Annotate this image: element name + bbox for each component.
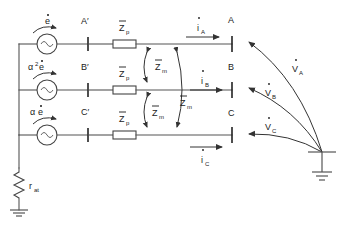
source-label-b: α 2 e [28, 60, 44, 72]
voltage-label-b: V B [265, 83, 276, 100]
impedance-label-zm-ab-sub: m [162, 68, 167, 74]
resistor-label-r-at: r at [29, 181, 39, 193]
current-label-c-sub: C [205, 161, 210, 167]
impedance-label-zp-a: Z p [119, 21, 130, 35]
voltage-label-b-base: V [265, 88, 271, 98]
voltage-label-c-base: V [265, 122, 271, 132]
terminal-label-c: C [228, 108, 235, 118]
neutral-resistor-symbol [14, 168, 24, 210]
impedance-box-zp-c [113, 131, 136, 139]
impedance-label-zm-ac-sub: m [187, 104, 192, 110]
phase-c-row [19, 125, 232, 145]
impedance-label-zm-ac-base: Z [180, 98, 186, 108]
current-label-a: i A [197, 17, 205, 35]
impedance-label-zp-b-base: Z [119, 69, 125, 79]
impedance-label-zp-b-sub: p [126, 75, 130, 81]
impedance-label-zm-ac: Z m [180, 96, 192, 110]
voltage-label-c-sub: C [272, 128, 277, 134]
current-label-a-base: i [197, 23, 199, 33]
resistor-label-base: r [29, 181, 32, 191]
impedance-label-zp-c: Z p [119, 112, 130, 126]
current-label-a-sub: A [201, 29, 205, 35]
source-polarity-arrow-b [33, 73, 56, 79]
impedance-label-zm-bc-base: Z [152, 108, 158, 118]
voltage-label-c: V C [265, 117, 277, 134]
voltage-label-b-sub: B [272, 94, 276, 100]
terminal-label-b-prime: B′ [81, 62, 89, 72]
source-label-c-coefficient: α [30, 107, 35, 117]
impedance-label-zp-c-sub: p [126, 120, 130, 126]
source-polarity-arrow-a [33, 27, 56, 33]
source-label-a: e [45, 14, 50, 26]
mutual-coupling-arc-bc [144, 97, 147, 127]
mutual-coupling-arc-ab [144, 52, 147, 82]
voltage-arrow-b [249, 88, 322, 152]
resistor-label-sub: at [34, 187, 39, 193]
terminal-label-a: A [228, 15, 234, 25]
impedance-label-zm-bc-sub: m [159, 114, 164, 120]
current-label-b-sub: B [205, 82, 209, 88]
source-ground-symbol [10, 210, 28, 216]
current-label-c-base: i [201, 155, 203, 165]
current-label-b-base: i [201, 76, 203, 86]
source-label-c: α e [30, 105, 43, 117]
impedance-label-zm-bc: Z m [152, 106, 164, 120]
voltage-label-a-base: V [292, 64, 298, 74]
voltage-label-a-sub: A [299, 70, 303, 76]
circuit-diagram-svg: e α 2 e α e A′ B′ C′ A B C Z p [0, 0, 356, 228]
current-label-b: i B [201, 70, 209, 88]
circuit-diagram-canvas: e α 2 e α e A′ B′ C′ A B C Z p [0, 0, 356, 228]
terminal-label-a-prime: A′ [81, 16, 89, 26]
voltage-label-a: V A [292, 59, 303, 76]
source-label-c-base: e [38, 107, 43, 117]
impedance-box-zp-a [113, 40, 136, 48]
impedance-label-zp-a-base: Z [119, 23, 125, 33]
source-label-b-coefficient: α [28, 62, 33, 72]
impedance-label-zp-c-base: Z [119, 114, 125, 124]
impedance-label-zp-b: Z p [119, 67, 130, 81]
source-label-a-text: e [45, 16, 50, 26]
current-label-c: i C [201, 149, 210, 167]
impedance-label-zm-ab: Z m [155, 60, 167, 74]
terminal-label-c-prime: C′ [81, 107, 89, 117]
load-ground-symbol [308, 152, 336, 180]
impedance-label-zp-a-sub: p [126, 29, 130, 35]
impedance-box-zp-b [113, 86, 136, 94]
terminal-label-b: B [228, 62, 234, 72]
source-polarity-arrow-c [33, 118, 56, 124]
impedance-label-zm-ab-base: Z [155, 62, 161, 72]
source-label-b-base: e [39, 62, 44, 72]
